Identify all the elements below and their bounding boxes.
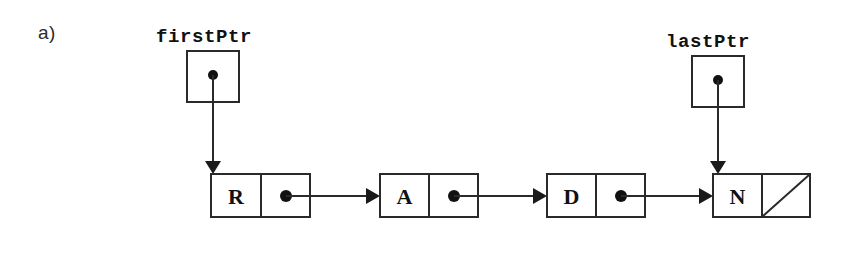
node-R-link-arrowhead-icon xyxy=(366,188,380,204)
pointer-label-firstPtr: firstPtr xyxy=(156,26,252,48)
node-A-link-arrowhead-icon xyxy=(533,188,547,204)
pointer-box-lastPtr xyxy=(692,56,744,174)
node-letter-D: D xyxy=(547,184,596,210)
node-letter-R: R xyxy=(211,184,261,210)
pointer-label-lastPtr: lastPtr xyxy=(666,31,750,53)
node-letter-A: A xyxy=(380,184,429,210)
node-letter-N: N xyxy=(713,184,762,210)
lastPtr-arrowhead-icon xyxy=(710,161,726,174)
figure-part-label: a) xyxy=(38,22,56,44)
linked-list-diagram: a) firstPtr lastPtr R A D N xyxy=(0,0,848,276)
node-D-link-arrowhead-icon xyxy=(699,188,713,204)
firstPtr-arrowhead-icon xyxy=(205,161,221,174)
pointer-box-firstPtr xyxy=(187,51,239,174)
